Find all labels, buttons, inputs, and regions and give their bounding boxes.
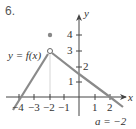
x-tick-label-neg1: −1: [58, 101, 70, 113]
graph: 6. y x y = f(x) 4 3 2 1 −4 −3 −2 −1 1 2 …: [0, 0, 136, 129]
x-axis-label: x: [127, 91, 133, 103]
x-tick-label-neg2: −2: [43, 101, 55, 113]
y-tick-label-4: 4: [67, 28, 73, 40]
filled-point: [48, 33, 52, 37]
problem-number: 6.: [5, 4, 15, 18]
y-tick-label-2: 2: [83, 60, 89, 72]
y-axis-label: y: [83, 7, 89, 19]
open-point: [48, 49, 53, 54]
y-tick-label-1: 1: [68, 75, 74, 87]
x-tick-label-1: 1: [92, 101, 98, 113]
y-tick-label-3: 3: [67, 44, 73, 56]
x-tick-label-neg4: −4: [12, 101, 24, 113]
x-tick-label-neg3: −3: [28, 101, 40, 113]
function-label: y = f(x): [7, 49, 41, 62]
annotation: a = −2: [95, 115, 127, 127]
x-tick-label-2: 2: [107, 101, 113, 113]
